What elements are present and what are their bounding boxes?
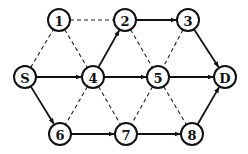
node-label: 6 <box>55 128 64 143</box>
directed-edge-S-6 <box>31 86 54 123</box>
dashed-edge-5-8 <box>164 86 187 124</box>
directed-edge-8-D <box>198 87 219 124</box>
node-label: 4 <box>88 71 97 86</box>
dashed-edge-4-6 <box>66 87 88 125</box>
node-5: 5 <box>147 66 169 88</box>
node-D: D <box>214 66 236 88</box>
node-label: 2 <box>120 14 129 29</box>
node-label: D <box>219 71 230 86</box>
node-3: 3 <box>177 9 199 31</box>
node-label: S <box>20 71 29 86</box>
node-1: 1 <box>48 9 70 31</box>
node-label: 3 <box>183 14 192 29</box>
node-2: 2 <box>114 9 136 31</box>
dashed-edge-3-5 <box>163 30 183 68</box>
dashed-edge-S-1 <box>31 29 54 67</box>
node-S: S <box>14 66 36 88</box>
node-label: 5 <box>153 71 162 86</box>
network-diagram: 123S45D678 <box>0 0 248 154</box>
directed-edges <box>31 20 219 134</box>
directed-edge-3-D <box>194 29 218 67</box>
node-label: 1 <box>54 14 63 29</box>
node-8: 8 <box>181 123 203 145</box>
node-label: 8 <box>187 128 196 143</box>
node-7: 7 <box>115 123 137 145</box>
node-6: 6 <box>49 123 71 145</box>
dashed-edge-1-4 <box>65 29 88 67</box>
dashed-edge-2-5 <box>131 30 153 68</box>
directed-edge-4-2 <box>98 30 119 67</box>
node-4: 4 <box>82 66 104 88</box>
dashed-edge-5-7 <box>131 87 152 125</box>
dashed-edge-4-7 <box>99 87 121 125</box>
node-label: 7 <box>121 128 130 143</box>
